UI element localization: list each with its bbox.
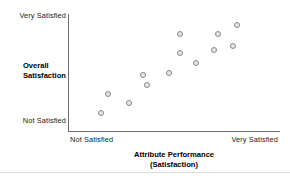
scatter-point xyxy=(211,47,217,53)
scatter-point xyxy=(215,31,221,37)
scatter-point xyxy=(234,22,240,28)
x-axis-low-tick-label: Not Satisfied xyxy=(70,135,113,144)
y-axis-title-line1: Overall xyxy=(23,61,66,71)
x-axis-high-tick-label: Very Satisfied xyxy=(231,135,278,144)
x-axis-line xyxy=(68,131,280,132)
footer-divider xyxy=(0,172,290,173)
scatter-point xyxy=(177,50,183,56)
y-axis-high-tick-label: Very Satisfied xyxy=(19,11,66,20)
x-axis-title-line1: Attribute Performance xyxy=(134,150,214,160)
scatter-point xyxy=(105,91,111,97)
scatter-point xyxy=(140,72,146,78)
scatter-point xyxy=(177,31,183,37)
scatter-point xyxy=(144,82,150,88)
scatter-point xyxy=(126,100,132,106)
y-axis-title-line2: Satisfaction xyxy=(23,71,66,81)
scatter-point xyxy=(193,60,199,66)
scatter-point xyxy=(98,110,104,116)
y-axis-low-tick-label: Not Satisfied xyxy=(23,116,66,125)
scatter-point xyxy=(230,43,236,49)
y-axis-title: Overall Satisfaction xyxy=(23,61,66,80)
y-axis-line xyxy=(68,14,69,132)
scatter-point xyxy=(166,70,172,76)
x-axis-title-line2: (Satisfaction) xyxy=(134,160,214,170)
x-axis-title: Attribute Performance (Satisfaction) xyxy=(134,150,214,169)
scatter-chart-figure: Very Satisfied Not Satisfied Not Satisfi… xyxy=(0,0,290,176)
